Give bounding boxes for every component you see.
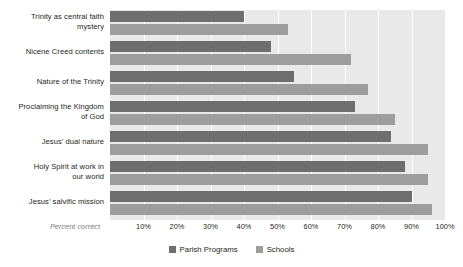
- legend-swatch-icon: [169, 246, 176, 253]
- bar-schools: [110, 174, 428, 185]
- category-label-line: Jesus’ dual nature: [0, 137, 104, 147]
- bar-group: [110, 191, 445, 221]
- category-label: Jesus’ dual nature: [0, 137, 104, 147]
- bar-schools: [110, 24, 288, 35]
- category-label-line: mystery: [0, 22, 104, 32]
- x-axis-tick-label: 10%: [136, 222, 151, 231]
- legend-swatch-icon: [256, 246, 263, 253]
- x-axis-tick-label: 20%: [170, 222, 185, 231]
- x-axis-tick-label: 50%: [270, 222, 285, 231]
- bar-group: [110, 11, 445, 41]
- bar-schools: [110, 114, 395, 125]
- category-label-line: Nicene Creed contents: [0, 47, 104, 57]
- category-label: Nicene Creed contents: [0, 47, 104, 57]
- x-axis-tick-label: 100%: [436, 222, 455, 231]
- category-label: Proclaiming the Kingdomof God: [0, 102, 104, 121]
- chart-legend: Parish ProgramsSchools: [0, 245, 463, 254]
- legend-label: Schools: [267, 245, 295, 254]
- bar-parish-programs: [110, 161, 405, 172]
- category-label: Jesus’ salvific mission: [0, 197, 104, 207]
- bar-parish-programs: [110, 131, 391, 142]
- category-label-line: our world: [0, 172, 104, 182]
- x-axis-tick-label: 80%: [371, 222, 386, 231]
- category-label-line: Proclaiming the Kingdom: [0, 102, 104, 112]
- bar-group: [110, 101, 445, 131]
- category-label: Nature of the Trinity: [0, 77, 104, 87]
- bar-group: [110, 71, 445, 101]
- category-label-line: of God: [0, 112, 104, 122]
- category-label-line: Holy Spirit at work in: [0, 162, 104, 172]
- legend-label: Parish Programs: [180, 245, 238, 254]
- bar-group: [110, 161, 445, 191]
- x-axis-tick-label: 60%: [304, 222, 319, 231]
- category-label-line: Jesus’ salvific mission: [0, 197, 104, 207]
- plot-area: [110, 10, 445, 220]
- bar-parish-programs: [110, 71, 294, 82]
- bar-schools: [110, 144, 428, 155]
- x-axis-tick-label: 70%: [337, 222, 352, 231]
- legend-item[interactable]: Parish Programs: [169, 245, 238, 254]
- bar-schools: [110, 84, 368, 95]
- bar-group: [110, 41, 445, 71]
- chart-container: Trinity as central faithmysteryNicene Cr…: [0, 0, 463, 267]
- gridline: [445, 10, 446, 220]
- x-axis-tick-label: 90%: [404, 222, 419, 231]
- bar-group: [110, 131, 445, 161]
- x-axis-tick-label: 30%: [203, 222, 218, 231]
- legend-item[interactable]: Schools: [256, 245, 295, 254]
- x-axis-ticks: 10%20%30%40%50%60%70%80%90%100%: [110, 222, 445, 236]
- category-label: Holy Spirit at work inour world: [0, 162, 104, 181]
- axis-note-label: Percent correct: [50, 222, 100, 231]
- bar-parish-programs: [110, 191, 412, 202]
- category-axis-labels: Trinity as central faithmysteryNicene Cr…: [0, 10, 104, 220]
- bar-parish-programs: [110, 11, 244, 22]
- category-label-line: Nature of the Trinity: [0, 77, 104, 87]
- bar-parish-programs: [110, 41, 271, 52]
- bar-schools: [110, 54, 351, 65]
- bar-parish-programs: [110, 101, 355, 112]
- category-label-line: Trinity as central faith: [0, 12, 104, 22]
- category-label: Trinity as central faithmystery: [0, 12, 104, 31]
- x-axis-tick-label: 40%: [237, 222, 252, 231]
- bar-schools: [110, 204, 432, 215]
